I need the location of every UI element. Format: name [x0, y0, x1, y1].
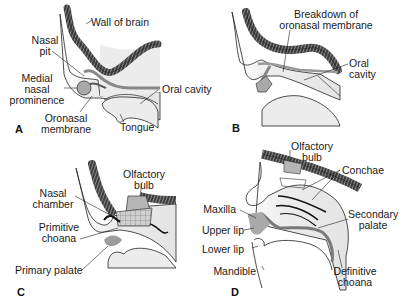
label-primitive-choana: Primitive choana: [36, 222, 82, 244]
panel-letter-a: A: [15, 123, 23, 135]
label-mandible: Mandible: [200, 266, 256, 277]
label-olfactory-bulb-d: Olfactory bulb: [290, 141, 334, 163]
label-definitive-choana: Definitive choana: [330, 266, 380, 288]
label-olfactory-d-line2: bulb: [290, 152, 334, 163]
label-oral-cavity-b: Oral cavity: [349, 58, 376, 80]
label-lower-lip: Lower lip: [192, 244, 244, 255]
label-nasal-chamber: Nasal chamber: [30, 188, 76, 210]
label-secondary-line2: palate: [348, 220, 398, 231]
label-olfactory-bulb-c: Olfactory bulb: [122, 169, 166, 191]
label-oral-line2: cavity: [349, 69, 376, 80]
label-conchae: Conchae: [342, 165, 384, 176]
diagram-artwork: [0, 0, 410, 307]
label-tongue: Tongue: [120, 122, 154, 133]
label-nasal-chamber-line2: chamber: [30, 199, 76, 210]
label-secondary-palate: Secondary palate: [348, 209, 398, 231]
label-medial-nasal-prominence: Medial nasal prominence: [6, 73, 68, 106]
label-oral-cavity-a: Oral cavity: [162, 84, 212, 95]
label-wall-of-brain: Wall of brain: [91, 17, 149, 28]
label-breakdown-line2: oronasal membrane: [276, 20, 376, 31]
label-medial-line3: prominence: [6, 95, 68, 106]
label-nasal-pit-line2: pit: [30, 46, 60, 57]
panel-letter-d: D: [231, 286, 239, 298]
label-upper-lip: Upper lip: [192, 225, 244, 236]
label-olfactory-c-line2: bulb: [122, 180, 166, 191]
label-primitive-line2: choana: [36, 233, 82, 244]
panel-letter-c: C: [17, 286, 25, 298]
label-nasal-pit: Nasal pit: [30, 35, 60, 57]
label-oronasal-membrane: Oronasal membrane: [40, 113, 92, 135]
label-primary-palate: Primary palate: [15, 265, 83, 276]
label-oronasal-line2: membrane: [40, 124, 92, 135]
panel-letter-b: B: [232, 122, 240, 134]
label-breakdown-oronasal-membrane: Breakdown of oronasal membrane: [276, 9, 376, 31]
figure: Wall of brain Nasal pit Medial nasal pro…: [0, 0, 410, 307]
label-maxilla: Maxilla: [196, 204, 236, 215]
label-definitive-line2: choana: [330, 277, 380, 288]
